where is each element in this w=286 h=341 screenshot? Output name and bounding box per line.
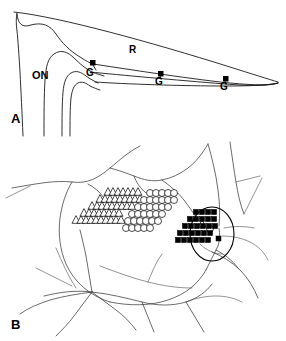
filled-square-symbol bbox=[201, 230, 206, 235]
vessel-upper-left-tail bbox=[6, 186, 30, 198]
retina-layer-upper bbox=[93, 64, 278, 85]
ganglion-label-2: G bbox=[155, 76, 163, 87]
optic-disc-cup-arc bbox=[200, 244, 222, 254]
vessel-lower-arcade-branch-b bbox=[56, 292, 92, 336]
open-circle-symbol bbox=[171, 190, 178, 197]
optic-nerve-label: ON bbox=[32, 69, 49, 81]
panel-a: ON R G G G bbox=[0, 0, 286, 140]
filled-square-symbol bbox=[205, 216, 210, 221]
panel-b-fundus-map bbox=[0, 140, 286, 341]
panel-label-b: B bbox=[11, 318, 20, 331]
vessel-disc-lower-branch bbox=[212, 252, 258, 298]
vessel-upper-right-d bbox=[236, 176, 260, 182]
vessel-mid-crossing-2 bbox=[148, 254, 162, 282]
vessel-lower-arcade-branch-g bbox=[186, 296, 242, 302]
filled-square-symbol bbox=[188, 223, 193, 228]
optic-nerve-core-left bbox=[62, 72, 98, 136]
vessel-upper-right-b bbox=[230, 142, 244, 214]
panel-a-diagram: ON R G G G bbox=[0, 0, 286, 140]
vessel-lower-arcade-branch-a bbox=[80, 230, 92, 292]
vessel-mid-crossing bbox=[100, 266, 192, 288]
optic-nerve-outer-sheath bbox=[17, 14, 93, 64]
ganglion-label-1: G bbox=[86, 67, 94, 78]
vessel-lower-arcade-branch-f bbox=[186, 302, 204, 332]
filled-square-symbol bbox=[199, 237, 204, 242]
open-circle-symbol bbox=[155, 218, 162, 225]
filled-square-symbol bbox=[199, 209, 204, 214]
filled-square-symbol bbox=[194, 223, 199, 228]
filled-square-symbol bbox=[193, 209, 198, 214]
filled-square-symbol bbox=[181, 237, 186, 242]
filled-square-symbol bbox=[193, 216, 198, 221]
vessel-disc-lateral bbox=[222, 236, 268, 260]
filled-square-symbol bbox=[199, 216, 204, 221]
filled-square-symbol bbox=[211, 216, 216, 221]
filled-square-symbol bbox=[189, 230, 194, 235]
filled-square-symbol bbox=[183, 230, 188, 235]
filled-square-symbol bbox=[200, 223, 205, 228]
vessel-lower-arcade-branch-e bbox=[142, 302, 154, 332]
retina-label: R bbox=[129, 44, 137, 55]
open-circle-symbol bbox=[147, 225, 154, 232]
filled-square-symbol bbox=[193, 237, 198, 242]
filled-square-symbol bbox=[206, 223, 211, 228]
filled-square-symbol bbox=[212, 223, 217, 228]
retina-layer-lower bbox=[95, 82, 278, 86]
open-circle-symbol bbox=[171, 197, 178, 204]
vessel-upper-arcade-branch-d bbox=[162, 144, 208, 180]
open-circle-symbol bbox=[159, 211, 166, 218]
filled-square-symbol bbox=[182, 223, 187, 228]
ganglion-label-3: G bbox=[220, 81, 228, 92]
filled-square-symbol bbox=[187, 216, 192, 221]
filled-square-symbol bbox=[205, 237, 210, 242]
vessel-lower-left-tail-2 bbox=[56, 248, 76, 288]
vessel-upper-arcade-branch-c bbox=[134, 176, 146, 193]
square-cluster bbox=[175, 209, 217, 242]
legend-filled-square bbox=[216, 236, 221, 241]
open-circle-symbol bbox=[165, 204, 172, 211]
vessel-disc-lateral-2 bbox=[224, 227, 254, 229]
vessel-upper-arcade-branch-b bbox=[110, 168, 162, 181]
filled-square-symbol bbox=[211, 209, 216, 214]
vessel-upper-right-c bbox=[244, 178, 262, 214]
filled-square-symbol bbox=[187, 237, 192, 242]
filled-square-symbol bbox=[175, 237, 180, 242]
vessel-lower-arcade-branch-d bbox=[20, 292, 92, 314]
filled-square-symbol bbox=[177, 230, 182, 235]
figure-root: ON R G G G bbox=[0, 0, 286, 341]
vessel-upper-arcade-main bbox=[12, 146, 140, 188]
optic-nerve-core-right bbox=[70, 82, 100, 136]
filled-square-symbol bbox=[205, 209, 210, 214]
filled-square-symbol bbox=[195, 230, 200, 235]
filled-square-symbol bbox=[207, 230, 212, 235]
panel-label-a: A bbox=[11, 112, 20, 125]
panel-b bbox=[0, 140, 286, 341]
ganglion-marker-1 bbox=[90, 60, 96, 66]
